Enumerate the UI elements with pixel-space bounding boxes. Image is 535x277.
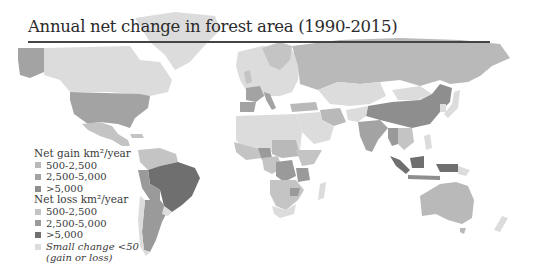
region-tasmania bbox=[460, 228, 466, 234]
region-canada bbox=[44, 46, 172, 96]
region-turkey bbox=[290, 102, 318, 112]
map-title: Annual net change in forest area (1990-2… bbox=[28, 17, 397, 36]
region-australia bbox=[420, 182, 474, 224]
region-png bbox=[458, 166, 470, 176]
swatch-icon bbox=[35, 244, 41, 250]
region-pakistan bbox=[346, 106, 368, 122]
map-legend: Net gain km²/year 500-2,500 2,500-5,000 … bbox=[34, 148, 139, 264]
legend-gain-header: Net gain km²/year bbox=[34, 148, 139, 160]
legend-item-small-change: Small change <50 bbox=[34, 241, 139, 253]
legend-small-change-note: (gain or loss) bbox=[34, 252, 139, 264]
swatch-icon bbox=[35, 174, 41, 180]
region-alaska bbox=[18, 48, 44, 78]
region-sudan bbox=[272, 140, 300, 158]
region-se-asia bbox=[398, 128, 414, 150]
region-indonesia-east bbox=[436, 164, 458, 172]
legend-item-gain-2500-5000: 2,500-5,000 bbox=[34, 171, 139, 183]
region-tanzania bbox=[296, 168, 310, 182]
swatch-icon bbox=[35, 162, 41, 168]
region-india bbox=[358, 120, 388, 152]
legend-item-gain-500-2500: 500-2,500 bbox=[34, 160, 139, 172]
legend-loss-header: Net loss km²/year bbox=[34, 194, 139, 206]
legend-item-loss-gt5000: >5,000 bbox=[34, 229, 139, 241]
region-horn bbox=[296, 150, 322, 166]
region-spain bbox=[240, 102, 256, 112]
region-philippines bbox=[424, 134, 432, 150]
region-dr-congo bbox=[276, 160, 296, 182]
legend-item-loss-2500-5000: 2,500-5,000 bbox=[34, 218, 139, 230]
region-usa bbox=[70, 92, 150, 128]
region-korea bbox=[440, 104, 446, 112]
region-russia bbox=[292, 38, 510, 90]
region-myanmar bbox=[388, 128, 398, 146]
region-new-zealand bbox=[494, 216, 508, 232]
swatch-icon bbox=[35, 186, 41, 192]
region-indonesia-sumatra bbox=[390, 156, 410, 174]
legend-item-loss-500-2500: 500-2,500 bbox=[34, 206, 139, 218]
region-indonesia-borneo bbox=[410, 156, 424, 168]
region-caribbean bbox=[130, 134, 144, 138]
title-underline bbox=[28, 41, 490, 43]
swatch-icon bbox=[35, 209, 41, 215]
region-southern-africa bbox=[270, 180, 304, 210]
region-indonesia-java bbox=[408, 175, 440, 180]
swatch-icon bbox=[35, 220, 41, 226]
swatch-icon bbox=[35, 232, 41, 238]
region-madagascar bbox=[318, 182, 326, 200]
